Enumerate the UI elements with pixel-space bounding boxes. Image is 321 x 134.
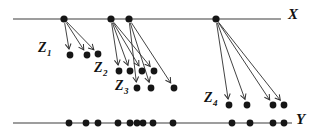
y-point (66, 120, 73, 127)
z3-dot (134, 85, 141, 92)
y-line-label: Y (296, 112, 305, 127)
y-point (83, 120, 90, 127)
group-label-z3-base: Z (115, 78, 124, 93)
group-label-z3: Z3 (115, 79, 128, 93)
group-label-z3-subscript: 3 (124, 86, 129, 96)
y-point (170, 120, 177, 127)
group-label-z4-subscript: 4 (213, 98, 218, 108)
arrow-z4 (219, 22, 281, 100)
z2-dot (127, 68, 134, 75)
z4-dot (281, 102, 288, 109)
arrow-z1 (67, 22, 94, 50)
z3-dot (148, 85, 155, 92)
y-point (95, 120, 102, 127)
y-point (140, 120, 147, 127)
diagram-canvas (0, 0, 321, 134)
group-label-z2-subscript: 2 (103, 68, 108, 78)
z2-dot (139, 68, 146, 75)
arrow-z1 (65, 23, 69, 49)
y-point (247, 120, 254, 127)
group-label-z4: Z4 (204, 91, 217, 105)
x-point (125, 15, 132, 22)
z1-dot (84, 52, 91, 59)
z4-dot (244, 102, 251, 109)
arrow-z3 (131, 23, 170, 83)
group-label-z4-base: Z (204, 90, 213, 105)
y-point (115, 120, 122, 127)
group-label-z2-base: Z (94, 60, 103, 75)
y-point (150, 120, 157, 127)
group-label-z2: Z2 (94, 61, 107, 75)
x-point (107, 15, 114, 22)
z2-dot (151, 68, 158, 75)
y-point (281, 120, 288, 127)
mapping-diagram: X Y Z1 Z2 Z3 Z4 (0, 0, 321, 134)
x-line-label: X (288, 7, 298, 22)
z4-dot (226, 102, 233, 109)
y-point (270, 120, 277, 127)
x-point (60, 15, 67, 22)
y-point (127, 120, 134, 127)
group-label-z1: Z1 (38, 41, 51, 55)
x-point (212, 15, 219, 22)
y-point (229, 120, 236, 127)
arrow-z4 (217, 23, 245, 99)
group-label-z1-subscript: 1 (47, 48, 52, 58)
z2-dot (116, 68, 123, 75)
y-point (134, 120, 141, 127)
z4-dot (270, 102, 277, 109)
group-label-z1-base: Z (38, 40, 47, 55)
z3-dot (171, 85, 178, 92)
z1-dot (95, 51, 102, 58)
z1-dot (67, 52, 74, 59)
arrow-z4 (218, 23, 269, 101)
